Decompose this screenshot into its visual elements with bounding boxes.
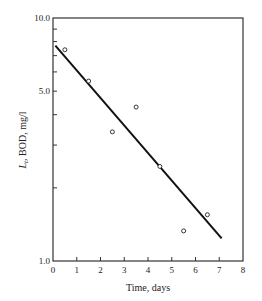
x-axis-ticks: 012345678 (51, 257, 246, 275)
x-tick-label: 7 (217, 265, 222, 275)
fitted-line (55, 46, 221, 239)
x-tick-label: 6 (193, 265, 198, 275)
y-tick-label: 5.0 (39, 86, 51, 96)
y-tick-label: 10.0 (34, 13, 50, 23)
data-point (63, 48, 67, 52)
y-axis-title: Lt, BOD, mg/l (17, 111, 30, 169)
fit-line-segment (55, 46, 221, 239)
x-tick-label: 5 (170, 265, 175, 275)
x-tick-label: 4 (146, 265, 151, 275)
x-axis-title: Time, days (126, 282, 170, 293)
x-tick-label: 2 (98, 265, 103, 275)
bod-chart: 10.05.01.0 012345678 Time, days Lt, BOD,… (0, 0, 262, 301)
y-tick-label: 1.0 (39, 256, 51, 266)
y-axis-title-rest: , BOD, mg/l (17, 111, 28, 161)
data-point (87, 79, 91, 83)
plot-frame (53, 18, 243, 261)
data-point (158, 164, 162, 168)
plot-border (53, 18, 243, 261)
data-point (134, 105, 138, 109)
data-point (110, 130, 114, 134)
data-point (205, 213, 209, 217)
x-tick-label: 1 (75, 265, 80, 275)
x-tick-label: 3 (122, 265, 127, 275)
x-tick-label: 0 (51, 265, 56, 275)
x-tick-label: 8 (241, 265, 246, 275)
data-point (182, 229, 186, 233)
